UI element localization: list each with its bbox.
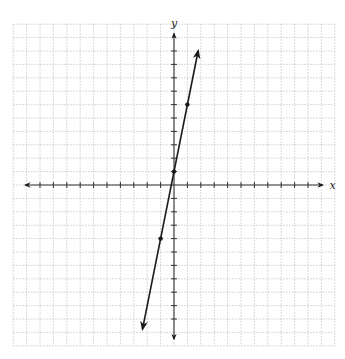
axes [25,34,322,340]
data-point [185,102,189,106]
y-axis-label: y [170,17,178,30]
data-point [158,236,162,240]
coordinate-plane: x y [0,0,345,359]
x-axis-label: x [329,179,336,192]
data-point [172,169,176,173]
plotted-line [143,51,199,329]
graph-line [143,51,199,329]
